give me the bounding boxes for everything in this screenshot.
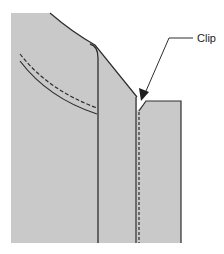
right-garment-panel xyxy=(137,101,181,243)
left-garment-panel xyxy=(11,13,137,243)
clip-arrow-leader xyxy=(146,38,193,91)
clip-arrow-head-icon xyxy=(139,88,149,101)
clip-diagram: Clip xyxy=(0,0,224,254)
clip-label: Clip xyxy=(197,32,216,44)
